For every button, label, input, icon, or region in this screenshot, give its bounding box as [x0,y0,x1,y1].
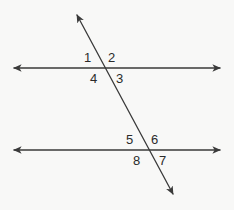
angle-label-7: 7 [159,154,166,167]
angle-label-4: 4 [90,72,97,85]
geometry-figure: 12345678 [0,0,234,210]
angle-label-1: 1 [84,51,91,64]
angle-label-6: 6 [151,133,158,146]
angle-label-3: 3 [116,72,123,85]
geometry-canvas [0,0,234,210]
angle-label-5: 5 [126,133,133,146]
angle-label-8: 8 [133,154,140,167]
angle-label-2: 2 [108,51,115,64]
